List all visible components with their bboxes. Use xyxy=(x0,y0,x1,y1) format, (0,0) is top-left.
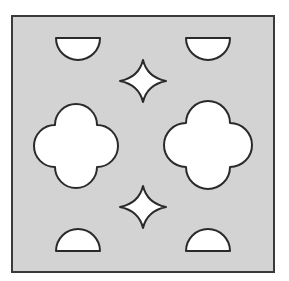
tile-figure xyxy=(0,0,289,281)
